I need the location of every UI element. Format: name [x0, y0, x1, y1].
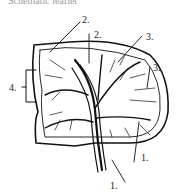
leaf-venation-diagram: 2. 2. 3. 3. 4. 1. 1. [0, 0, 179, 194]
label-1-bottom: 1. [110, 180, 118, 191]
label-3-top: 3. [146, 31, 154, 42]
label-4: 4. [9, 82, 17, 93]
label-2-right: 2. [94, 29, 102, 40]
secondary-vein [45, 90, 88, 95]
secondary-vein [45, 120, 93, 128]
label-2-left: 2. [82, 14, 90, 25]
label-3-right: 3. [153, 62, 161, 73]
leader-1-bottom [112, 160, 125, 182]
secondary-vein [95, 62, 140, 108]
secondary-vein [98, 55, 102, 100]
label-1-right: 1. [141, 152, 149, 163]
midrib [75, 60, 102, 170]
secondary-vein [96, 117, 150, 120]
leader-3-right [147, 67, 150, 88]
